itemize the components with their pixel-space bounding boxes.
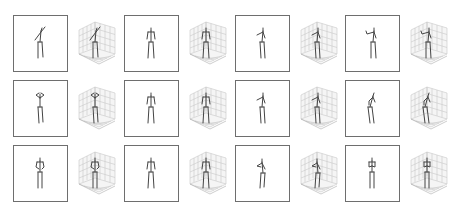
skeleton-bone bbox=[366, 31, 374, 34]
skeleton-2d bbox=[14, 81, 67, 136]
skeleton-bone bbox=[257, 97, 263, 100]
pose-2d-panel bbox=[235, 145, 290, 202]
skeleton-bone bbox=[375, 42, 376, 58]
skeleton-bone bbox=[147, 32, 148, 39]
axes-3d-grid bbox=[71, 81, 121, 137]
skeleton-bone bbox=[257, 163, 262, 167]
skeleton-bone bbox=[154, 97, 155, 104]
skeleton-bone bbox=[372, 107, 374, 123]
axes-3d-grid bbox=[293, 16, 343, 72]
skeleton-bone bbox=[42, 42, 43, 57]
pose-2d-panel bbox=[345, 15, 400, 72]
skeleton-2d bbox=[125, 16, 178, 71]
axes-3d-grid bbox=[403, 146, 453, 202]
axes-3d-grid bbox=[71, 146, 121, 202]
skeleton-bone bbox=[147, 97, 148, 104]
skeleton-bone bbox=[257, 32, 263, 35]
skeleton-2d bbox=[236, 81, 289, 136]
axes-3d-grid bbox=[182, 81, 232, 137]
skeleton-2d bbox=[14, 16, 67, 71]
pose-2d-panel bbox=[235, 15, 290, 72]
axes-3d-grid bbox=[403, 81, 453, 137]
skeleton-bone bbox=[264, 107, 265, 123]
pose-3d-plot bbox=[71, 146, 121, 202]
skeleton-bone bbox=[147, 162, 148, 169]
skeleton-2d bbox=[236, 146, 289, 201]
pose-2d-panel bbox=[13, 80, 68, 137]
axes-3d-grid bbox=[293, 146, 343, 202]
skeleton-bone bbox=[36, 162, 39, 169]
pose-3d-plot bbox=[182, 16, 232, 72]
skeleton-bone bbox=[36, 93, 40, 98]
skeleton-bone bbox=[40, 93, 44, 98]
pose-2d-panel bbox=[345, 80, 400, 137]
skeleton-bone bbox=[374, 32, 376, 38]
skeleton-bone bbox=[154, 162, 155, 169]
skeleton-2d bbox=[346, 81, 399, 136]
pose-3d-plot bbox=[182, 146, 232, 202]
skeleton-bone bbox=[148, 172, 149, 188]
skeleton-bone bbox=[42, 162, 44, 169]
skeleton-bone bbox=[38, 107, 39, 123]
skeleton-2d bbox=[346, 146, 399, 201]
pose-3d-plot bbox=[403, 81, 453, 137]
skeleton-bone bbox=[153, 172, 154, 188]
skeleton-bone bbox=[42, 107, 43, 122]
pose-3d-plot bbox=[71, 81, 121, 137]
pose-2d-panel bbox=[124, 80, 179, 137]
pose-2d-panel bbox=[345, 145, 400, 202]
pose-2d-panel bbox=[13, 145, 68, 202]
pose-3d-plot bbox=[182, 81, 232, 137]
skeleton-bone bbox=[148, 42, 149, 58]
skeleton-bone bbox=[263, 97, 265, 103]
skeleton-2d bbox=[14, 146, 67, 201]
skeleton-bone bbox=[264, 42, 265, 58]
skeleton-bone bbox=[260, 173, 261, 188]
pose-3d-plot bbox=[293, 146, 343, 202]
axes-3d-grid bbox=[182, 146, 232, 202]
axes-3d-grid bbox=[71, 16, 121, 72]
pose-3d-plot bbox=[403, 16, 453, 72]
skeleton-bone bbox=[153, 42, 154, 58]
skeleton-2d bbox=[346, 16, 399, 71]
skeleton-2d bbox=[125, 146, 178, 201]
pose-3d-plot bbox=[293, 16, 343, 72]
skeleton-bone bbox=[373, 97, 375, 102]
skeleton-bone bbox=[264, 173, 265, 187]
pose-3d-plot bbox=[293, 81, 343, 137]
skeleton-bone bbox=[263, 32, 265, 38]
skeleton-2d bbox=[236, 16, 289, 71]
pose-2d-panel bbox=[124, 145, 179, 202]
axes-3d-grid bbox=[403, 16, 453, 72]
skeleton-bone bbox=[260, 42, 261, 58]
axes-3d-grid bbox=[293, 81, 343, 137]
pose-2d-panel bbox=[13, 15, 68, 72]
skeleton-bone bbox=[148, 107, 149, 123]
pose-3d-plot bbox=[71, 16, 121, 72]
skeleton-bone bbox=[368, 107, 370, 123]
skeleton-2d bbox=[125, 81, 178, 136]
axes-3d-grid bbox=[182, 16, 232, 72]
pose-2d-panel bbox=[235, 80, 290, 137]
pose-3d-plot bbox=[403, 146, 453, 202]
pose-2d-panel bbox=[124, 15, 179, 72]
skeleton-bone bbox=[260, 107, 261, 123]
skeleton-bone bbox=[153, 107, 154, 123]
skeleton-bone bbox=[154, 32, 155, 39]
